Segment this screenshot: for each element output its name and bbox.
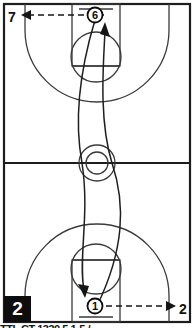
player-marker-1-label: 1	[88, 301, 102, 312]
pass-target-label-7: 7	[8, 10, 16, 24]
footer-caption: TTL CT 1330 5 1-5 /	[0, 323, 194, 328]
play-number-badge: 2	[4, 296, 31, 322]
play-diagram-screen: 6 1 7 2 2 TTL CT 1330 5 1-5 /	[0, 0, 194, 328]
player-marker-6-label: 6	[88, 10, 102, 21]
basketball-court-svg	[0, 0, 194, 328]
pass-target-label-2: 2	[179, 302, 187, 316]
